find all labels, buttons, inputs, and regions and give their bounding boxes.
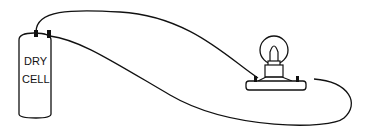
light-bulb <box>246 36 306 90</box>
bulb-terminal-left <box>254 76 257 82</box>
wire-bottom <box>50 36 351 125</box>
dry-cell-label-line2: CELL <box>22 73 50 86</box>
battery-terminal-right <box>47 30 51 38</box>
dry-cell-label-line1: DRY <box>24 55 47 68</box>
battery-terminal-left <box>34 30 38 37</box>
wire-top <box>36 11 258 78</box>
circuit-diagram <box>0 0 368 133</box>
bulb-socket <box>246 81 306 90</box>
bulb-terminal-right <box>296 76 299 82</box>
